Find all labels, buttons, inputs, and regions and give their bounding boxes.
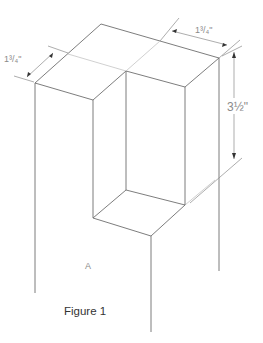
vertical-edges — [35, 58, 219, 332]
dimension-top-width: 1³/₄" — [160, 18, 240, 58]
dim-label-left: 1³/₄" — [4, 54, 21, 64]
top-face — [35, 24, 219, 100]
dimension-left-depth: 1³/₄" — [4, 46, 68, 82]
isometric-drawing: 1³/₄" 1³/₄" 3½" A — [0, 0, 263, 343]
figure-caption: Figure 1 — [64, 305, 106, 317]
dim-label-top: 1³/₄" — [195, 25, 212, 35]
arrow-icon — [232, 52, 236, 58]
arrow-icon — [49, 53, 53, 58]
notch-floor — [93, 190, 185, 236]
construction-lines — [68, 41, 215, 205]
dim-label-height: 3½" — [227, 100, 248, 114]
arrow-icon — [232, 153, 236, 159]
arrow-icon — [27, 72, 31, 77]
region-label-a: A — [85, 261, 91, 271]
